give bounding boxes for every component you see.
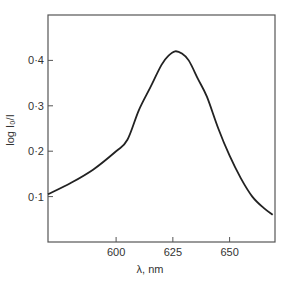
- absorbance-curve: [48, 51, 273, 215]
- x-tick-label: 600: [107, 246, 125, 258]
- x-axis-ticks: 600625650: [107, 237, 239, 258]
- x-tick-label: 625: [164, 246, 182, 258]
- plot-frame: [48, 15, 275, 242]
- y-tick-label: 0·2: [28, 145, 44, 157]
- y-axis-label: log I₀/I: [4, 114, 16, 145]
- y-tick-label: 0·4: [28, 54, 44, 66]
- x-axis-label: λ, nm: [137, 263, 164, 275]
- absorbance-chart: 600625650 0·10·20·30·4 λ, nm log I₀/I: [0, 0, 289, 284]
- y-tick-label: 0·3: [28, 100, 44, 112]
- x-tick-label: 650: [220, 246, 238, 258]
- y-axis-ticks: 0·10·20·30·4: [28, 54, 53, 202]
- y-tick-label: 0·1: [28, 191, 44, 203]
